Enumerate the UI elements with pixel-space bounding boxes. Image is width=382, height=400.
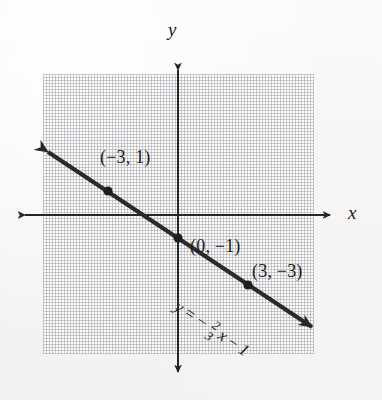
data-point-0-neg1 [173,233,182,242]
plot-canvas [0,0,382,400]
graph-figure: y x (−3, 1) (0, −1) (3, −3) y = − 2 3 x … [0,0,382,400]
x-axis-label: x [348,203,356,222]
y-axis-label: y [168,20,176,39]
data-point-3-neg3 [243,280,252,289]
point-label-0-neg1: (0, −1) [190,237,241,255]
point-label-3-neg3: (3, −3) [252,262,303,280]
data-point-neg3-1 [103,186,112,195]
point-label-neg3-1: (−3, 1) [100,148,151,166]
